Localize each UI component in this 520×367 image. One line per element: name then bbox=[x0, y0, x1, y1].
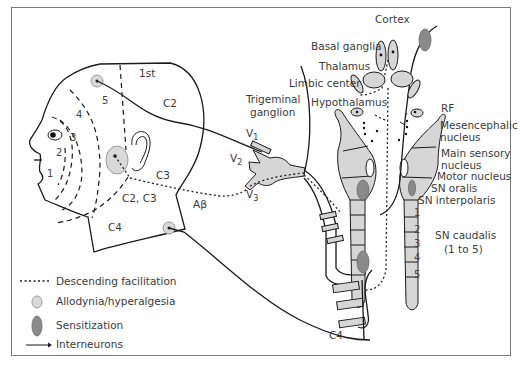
dermatome-lines bbox=[52, 65, 128, 223]
right-nucleus-column bbox=[400, 114, 446, 310]
label-main-sensory-1: Main sensory bbox=[441, 147, 510, 159]
legend-label-descending: Descending facilitation bbox=[56, 275, 176, 287]
zone-1: 1 bbox=[47, 168, 53, 179]
zone-3: 3 bbox=[70, 132, 76, 143]
legend-label-sensitization: Sensitization bbox=[56, 319, 123, 331]
label-v3: V3 bbox=[246, 188, 258, 203]
label-mesencephalic-1: Mesencephalic bbox=[440, 119, 518, 131]
legend: Descending facilitation Allodynia/hypera… bbox=[20, 275, 176, 350]
allodynia-spot-temple bbox=[106, 146, 128, 174]
caudalis-seg-5: 5 bbox=[414, 269, 420, 280]
label-limbic-center: Limbic center bbox=[289, 77, 361, 89]
sensitization-sn-right bbox=[409, 180, 416, 196]
legend-label-allodynia: Allodynia/hyperalgesia bbox=[56, 295, 175, 307]
label-sn-interpolaris: SN interpolaris bbox=[418, 194, 495, 206]
legend-light-oval-icon bbox=[32, 296, 42, 308]
label-spinal-c4: C4 bbox=[329, 329, 343, 341]
label-mesencephalic-2: nucleus bbox=[440, 131, 481, 143]
thalamus-right bbox=[391, 71, 413, 87]
sensitization-caudalis bbox=[357, 251, 369, 273]
caudalis-seg-3: 3 bbox=[414, 238, 420, 249]
label-trigeminal: Trigeminal bbox=[245, 93, 300, 105]
label-c3: C3 bbox=[156, 169, 170, 181]
sensitization-cortex bbox=[419, 29, 431, 51]
label-c4: C4 bbox=[108, 221, 122, 233]
label-hypothalamus: Hypothalamus bbox=[311, 96, 387, 108]
zone-4: 4 bbox=[76, 109, 82, 120]
label-v1: V1 bbox=[246, 127, 258, 142]
zone-2: 2 bbox=[56, 147, 62, 158]
zone-5: 5 bbox=[102, 95, 108, 106]
label-c2-c3: C2, C3 bbox=[122, 192, 157, 204]
label-c2: C2 bbox=[163, 97, 177, 109]
left-nucleus-column bbox=[335, 110, 376, 308]
label-ganglion: ganglion bbox=[250, 106, 295, 118]
caudalis-seg-4: 4 bbox=[414, 252, 420, 263]
legend-label-interneurons: Interneurons bbox=[56, 338, 123, 350]
label-basal-ganglia: Basal ganglia bbox=[311, 40, 382, 52]
caudalis-seg-2: 2 bbox=[414, 224, 420, 235]
sensitization-sn-left bbox=[357, 180, 369, 200]
label-sn-caudalis: SN caudalis bbox=[435, 229, 496, 241]
label-abeta: Aβ bbox=[193, 198, 207, 210]
thalamus-left bbox=[363, 72, 385, 88]
label-cortex: Cortex bbox=[375, 13, 410, 25]
v1-nerve bbox=[97, 81, 262, 152]
label-thalamus: Thalamus bbox=[318, 60, 370, 72]
rf-right bbox=[411, 109, 423, 117]
label-1st: 1st bbox=[139, 67, 155, 79]
caudalis-seg-1: 1 bbox=[414, 207, 420, 218]
legend-dark-oval-icon bbox=[32, 316, 42, 336]
basal-ganglia-right bbox=[388, 40, 398, 70]
trigeminocervical-diagram: 5 4 3 2 1 1st C2 C3 C2, C3 C4 Aβ Trigemi… bbox=[0, 0, 520, 367]
label-motor-nucleus: Motor nucleus bbox=[437, 170, 511, 182]
label-rf: RF bbox=[441, 102, 454, 114]
label-v2: V2 bbox=[230, 152, 242, 167]
label-sn-caudalis-range: (1 to 5) bbox=[444, 243, 483, 255]
label-sn-oralis: SN oralis bbox=[431, 182, 477, 194]
